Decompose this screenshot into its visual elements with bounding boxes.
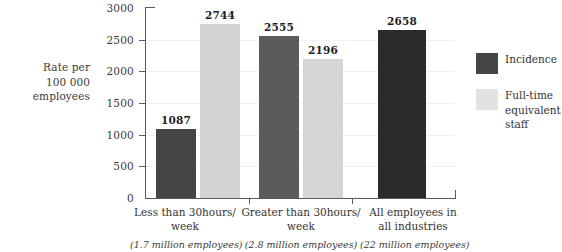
bar-fte-less-than-30h: 2744 — [200, 24, 240, 198]
category-line-2: all industries — [378, 220, 448, 232]
bar-value-label: 2658 — [387, 15, 417, 27]
legend-item-incidence: Incidence — [476, 52, 562, 74]
bar-incidence-less-than-30h: 1087 — [156, 129, 196, 198]
y-tick-label-2000: 2000 — [88, 65, 134, 77]
legend-swatch-icon-incidence — [476, 53, 498, 74]
y-axis-title: Rate per 100 000 employees — [8, 60, 90, 104]
y-tick-mark-1500 — [139, 103, 146, 104]
category-line-1: Less than 30hours/ — [134, 206, 236, 218]
y-tick-mark-1000 — [139, 135, 146, 136]
x-axis-right-cap — [455, 190, 456, 199]
legend-label-fte-line-3: staff — [505, 118, 528, 130]
category-line-2: week — [171, 220, 199, 232]
y-tick-label-2500: 2500 — [88, 34, 134, 46]
y-axis-title-line-1: Rate per — [8, 60, 90, 75]
chart-legend: Incidence Full-timeequivalentstaff — [476, 52, 562, 146]
y-tick-label-500: 500 — [88, 160, 134, 172]
bar-value-label: 2555 — [264, 21, 294, 33]
y-tick-label-1500: 1500 — [88, 97, 134, 109]
y-axis-title-line-3: employees — [8, 89, 90, 104]
legend-label-incidence: Incidence — [505, 52, 562, 67]
category-label-less-than-30h: Less than 30hours/ week (1.7 million emp… — [130, 206, 240, 252]
bar-value-label: 1087 — [161, 114, 191, 126]
bar-fte-greater-than-30h: 2196 — [303, 59, 343, 198]
scan-artifact — [190, 0, 199, 4]
bar-chart-figure: Rate per 100 000 employees 3000 2500 200… — [0, 0, 562, 252]
category-label-all-industries: All employees in all industries (22 mill… — [360, 206, 466, 252]
category-line-1: Greater than 30hours/ — [241, 206, 360, 218]
y-tick-label-3000: 3000 — [88, 2, 134, 14]
y-tick-label-1000: 1000 — [88, 129, 134, 141]
y-tick-mark-2500 — [139, 40, 146, 41]
bar-value-label: 2196 — [308, 44, 338, 56]
bar-incidence-all-industries: 2658 — [378, 30, 426, 198]
legend-swatch-icon-fte — [476, 89, 498, 110]
y-tick-mark-2000 — [139, 71, 146, 72]
x-axis-category-labels: Less than 30hours/ week (1.7 million emp… — [0, 200, 562, 252]
legend-label-fte-line-1: Full-time — [505, 89, 553, 101]
legend-label-fte: Full-timeequivalentstaff — [505, 88, 562, 132]
category-line-2: week — [287, 220, 315, 232]
category-sublabel: (22 million employees) — [360, 238, 466, 252]
bar-incidence-greater-than-30h: 2555 — [259, 36, 299, 198]
category-sublabel: (2.8 million employees) — [240, 238, 362, 252]
y-axis-top-cap — [145, 7, 155, 8]
category-label-greater-than-30h: Greater than 30hours/ week (2.8 million … — [240, 206, 362, 252]
bar-value-label: 2744 — [205, 9, 235, 21]
plot-area: 1087 2744 2555 2196 2658 — [146, 8, 455, 198]
legend-item-fte: Full-timeequivalentstaff — [476, 88, 562, 132]
category-sublabel: (1.7 million employees) — [130, 238, 240, 252]
y-tick-mark-500 — [139, 166, 146, 167]
y-axis-title-line-2: 100 000 — [8, 75, 90, 90]
category-line-1: All employees in — [369, 206, 456, 218]
legend-label-fte-line-2: equivalent — [505, 104, 561, 116]
